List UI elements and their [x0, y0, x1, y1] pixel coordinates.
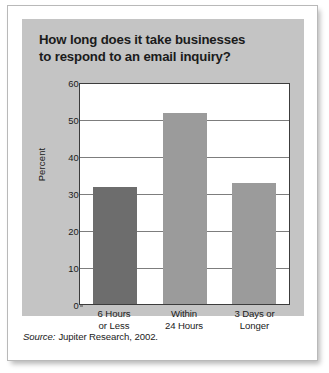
- bars-layer: [80, 84, 289, 304]
- figure-card: How long does it take businesses to resp…: [7, 5, 318, 361]
- bar-6-hours-or-less: [93, 187, 137, 304]
- y-tick-60: 60: [56, 78, 79, 89]
- y-tick-30: 30: [56, 189, 79, 200]
- plot-area: [79, 83, 290, 305]
- x-label-3-days-or-longer: 3 Days or Longer: [219, 308, 290, 331]
- bar-within-24-hours: [163, 113, 207, 304]
- plot-block: Percent 60 50 40 30 20 10 0: [22, 19, 304, 316]
- source-note: Source:Jupiter Research, 2002.: [23, 331, 158, 342]
- y-axis-tick-labels: 60 50 40 30 20 10 0: [56, 83, 79, 305]
- y-tick-0: 0: [56, 300, 79, 311]
- y-tickmark-0: [80, 305, 83, 306]
- y-tick-50: 50: [56, 115, 79, 126]
- y-axis-label: Percent: [36, 125, 47, 205]
- chart-panel: How long does it take businesses to resp…: [22, 19, 304, 316]
- y-tick-10: 10: [56, 263, 79, 274]
- x-label-6-hours-or-less: 6 Hours or Less: [79, 308, 149, 331]
- y-tick-20: 20: [56, 226, 79, 237]
- x-label-within-24-hours: Within 24 Hours: [149, 308, 219, 331]
- source-label: Source:: [23, 331, 55, 342]
- source-text: Jupiter Research, 2002.: [58, 331, 158, 342]
- y-tick-40: 40: [56, 152, 79, 163]
- bar-3-days-or-longer: [232, 183, 276, 304]
